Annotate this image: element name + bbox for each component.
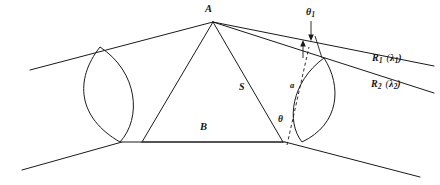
apex-point-A: A — [205, 4, 212, 15]
ray-R1-paren-open: ( — [383, 52, 390, 63]
right-aperture-arc-outer — [293, 58, 324, 142]
side-S: S — [239, 82, 245, 92]
diagram-vector-layer — [0, 0, 440, 185]
diagram-canvas: A B S a θ θ1 R1(λ1) R2(λ2) — [0, 0, 440, 185]
lower-boundary-line-left — [22, 142, 122, 170]
theta1-arrow-lower-head — [300, 40, 306, 46]
ray-R1-subscript: 1 — [379, 57, 383, 65]
left-aperture-arc-outer — [84, 47, 120, 142]
path-difference-dashed-line — [287, 47, 309, 145]
ray-R1-lambda1: R1(λ1) — [372, 53, 402, 65]
ray-R2-paren-close: ) — [397, 78, 400, 89]
triangle-right-side — [213, 22, 283, 142]
angle-theta: θ — [278, 115, 283, 125]
ray-R1-base: R — [372, 52, 379, 63]
ray-R2-subscript: 2 — [378, 83, 382, 91]
theta1-arrow-upper-head — [308, 35, 314, 41]
angle-theta-one-subscript: 1 — [311, 11, 315, 19]
ray-R2-lambda2: R2(λ2) — [371, 79, 401, 91]
left-aperture-arc-inner — [100, 47, 133, 142]
upper-boundary-line — [30, 22, 213, 70]
lower-boundary-line-right — [285, 142, 420, 177]
ray-R2-base: R — [371, 78, 378, 89]
path-difference-a: a — [290, 81, 294, 90]
baseline-B: B — [200, 122, 207, 133]
ray-R2-paren-open: ( — [382, 78, 389, 89]
angle-theta-one: θ1 — [306, 7, 315, 19]
right-aperture-arc-inner — [302, 58, 335, 142]
ray-R1-paren-close: ) — [398, 52, 401, 63]
